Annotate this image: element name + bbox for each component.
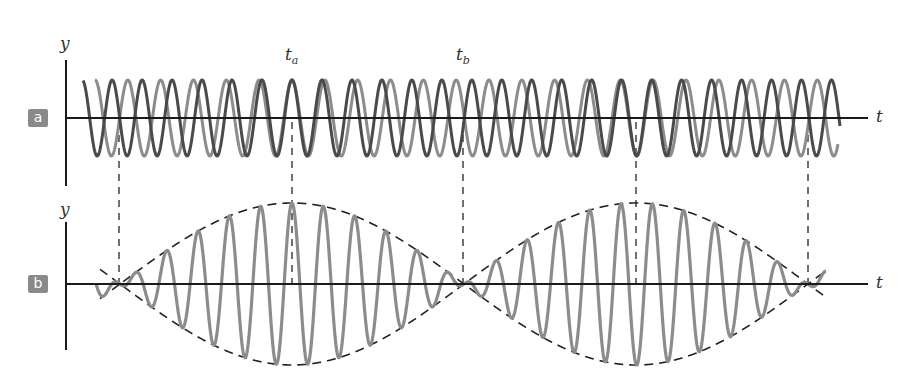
marker-tb-t: t bbox=[456, 44, 463, 64]
marker-ta-t: t bbox=[285, 44, 292, 64]
beats-plot bbox=[0, 0, 909, 387]
marker-ta: ta bbox=[285, 44, 298, 64]
marker-ta-sub: a bbox=[292, 54, 299, 67]
panel-b-y-label: y bbox=[60, 199, 70, 219]
panel-b-label: b bbox=[28, 275, 48, 293]
beats-figure: a b y y t t ta tb bbox=[0, 0, 909, 387]
panel-b-plot bbox=[66, 203, 868, 365]
panel-b-t-label: t bbox=[876, 272, 883, 292]
panel-a-plot bbox=[66, 60, 868, 186]
panel-a-label: a bbox=[28, 109, 48, 127]
panel-a-y-label: y bbox=[60, 33, 70, 53]
marker-tb: tb bbox=[456, 44, 470, 64]
panel-a-t-label: t bbox=[876, 106, 883, 126]
marker-tb-sub: b bbox=[463, 54, 470, 67]
